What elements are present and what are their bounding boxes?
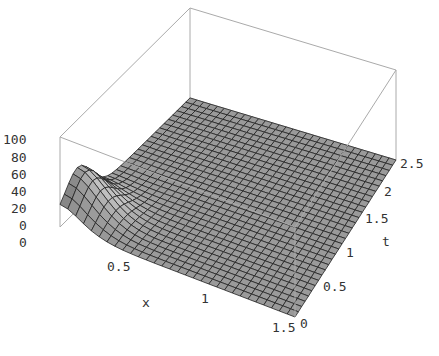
x-tick-0.5: 0.5	[107, 260, 130, 273]
z-tick-100: 100	[3, 133, 26, 146]
x-axis-label: x	[142, 296, 150, 309]
x-tick-1.5: 1.5	[272, 321, 295, 334]
t-tick-2.5: 2.5	[400, 157, 423, 170]
t-axis-label: t	[382, 235, 390, 248]
z-tick-80: 80	[11, 151, 27, 164]
x-tick-0: 0	[19, 236, 27, 249]
t-tick-1: 1	[346, 246, 354, 259]
t-tick-0.5: 0.5	[323, 280, 346, 293]
x-tick-1: 1	[201, 292, 209, 305]
z-tick-60: 60	[11, 168, 27, 181]
t-tick-0: 0	[300, 317, 308, 330]
z-tick-40: 40	[11, 185, 27, 198]
t-tick-1.5: 1.5	[365, 212, 388, 225]
surface-plot	[0, 0, 439, 356]
t-tick-2: 2	[384, 185, 392, 198]
z-tick-0: 0	[19, 219, 27, 232]
z-tick-20: 20	[11, 202, 27, 215]
